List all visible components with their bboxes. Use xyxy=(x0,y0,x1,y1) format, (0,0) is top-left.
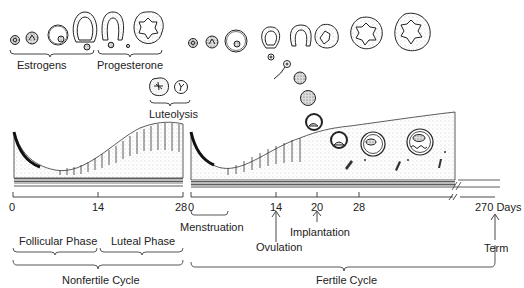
morula-icon xyxy=(294,72,306,84)
tick-fertile-20: 20 xyxy=(311,202,323,213)
basal-layer-nonfertile xyxy=(14,178,183,184)
tick-270-days: 270 Days xyxy=(475,202,521,213)
brace-nonfertile-cycle xyxy=(13,260,183,269)
brace-follicular-phase xyxy=(13,248,97,255)
corpus-albicans-icon xyxy=(175,81,188,94)
ovum-icon xyxy=(268,54,274,60)
tick-fertile-0: 0 xyxy=(188,202,194,213)
label-estrogens: Estrogens xyxy=(17,60,67,71)
brace-progesterone xyxy=(98,50,162,57)
label-progesterone: Progesterone xyxy=(97,60,163,71)
label-term: Term xyxy=(484,243,508,254)
label-implantation: Implantation xyxy=(290,227,350,238)
basal-layer-fertile xyxy=(191,180,455,186)
tick-fertile-28: 28 xyxy=(353,202,365,213)
ovarian-follicles-nonfertile xyxy=(11,12,164,50)
label-nonfertile-cycle: Nonfertile Cycle xyxy=(62,275,140,286)
tick-nonfertile-28: 28 xyxy=(175,202,187,213)
brace-estrogens xyxy=(10,50,94,57)
label-ovulation: Ovulation xyxy=(256,242,302,253)
label-follicular-phase: Follicular Phase xyxy=(19,236,97,247)
ovum-to-blastocyst-path xyxy=(268,54,322,130)
secondary-follicle-icon xyxy=(48,25,68,45)
regressing-corpus-luteum-icon xyxy=(150,78,169,96)
label-luteal-phase: Luteal Phase xyxy=(111,236,175,247)
ovulated-follicle-icon xyxy=(102,12,130,48)
brace-fertile-cycle xyxy=(191,245,495,271)
ovarian-follicles-fertile xyxy=(189,13,431,52)
primary-follicle-icon xyxy=(26,32,38,44)
brace-menstruation xyxy=(191,211,228,215)
ovulation-arrow-icon xyxy=(272,211,280,242)
embryo-early-icon xyxy=(361,132,385,156)
menstrual-pregnancy-diagram: Estrogens Progesterone Luteolysis 0 14 2… xyxy=(0,0,524,288)
term-arrow-icon xyxy=(491,214,499,240)
brace-luteolysis xyxy=(150,100,190,106)
tick-fertile-14: 14 xyxy=(270,202,282,213)
brace-luteal-phase xyxy=(100,248,183,255)
embryo-late-icon xyxy=(407,129,433,155)
tick-nonfertile-14: 14 xyxy=(92,202,104,213)
endometrium-fertile xyxy=(191,112,500,190)
corpus-luteum-icon xyxy=(134,12,163,44)
graafian-follicle-icon xyxy=(73,12,97,50)
implanting-blastocyst-icon xyxy=(331,132,347,148)
endometrium-nonfertile xyxy=(14,122,183,186)
blastocyst-icon xyxy=(306,114,322,130)
tick-nonfertile-0: 0 xyxy=(9,202,15,213)
label-fertile-cycle: Fertile Cycle xyxy=(316,275,377,286)
label-menstruation: Menstruation xyxy=(180,222,244,233)
label-luteolysis: Luteolysis xyxy=(149,109,198,120)
morula-late-icon xyxy=(301,91,316,106)
time-axis xyxy=(13,192,495,200)
primordial-follicle-icon xyxy=(11,36,20,45)
fertilized-ovum-icon xyxy=(274,61,291,80)
luteolysis-bodies xyxy=(150,78,190,106)
